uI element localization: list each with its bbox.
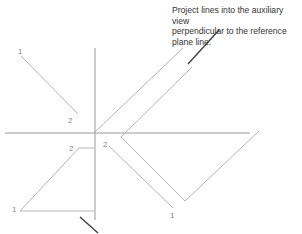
front-view-point-1-label: 1	[12, 205, 17, 214]
annotation-leader-line	[188, 30, 219, 64]
auxiliary-view-point-2-label: 2	[103, 140, 108, 149]
auxiliary-view-point-1-label: 1	[170, 211, 175, 220]
auxiliary-view-diagram: 1 2 1 2 2 1	[0, 0, 302, 234]
auxiliary-view-v-outline	[121, 131, 259, 201]
front-view-point-2-label: 2	[69, 144, 74, 153]
auxiliary-view-line-2-1	[109, 146, 173, 208]
top-view-line-1-2	[21, 56, 78, 114]
projection-line-lower	[121, 67, 192, 137]
top-view-point-1-label: 1	[18, 47, 23, 56]
top-view-point-2-label: 2	[68, 116, 73, 125]
front-view-outline	[20, 148, 94, 211]
